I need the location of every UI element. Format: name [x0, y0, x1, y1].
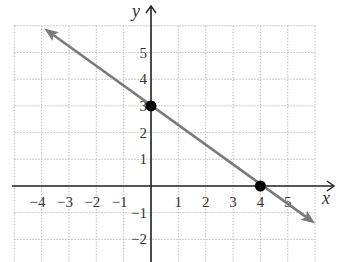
x-axis-label: x	[321, 188, 330, 208]
y-tick-label: 5	[140, 45, 148, 61]
line-series	[53, 35, 306, 217]
coordinate-plane: −4−3−2−11234554321−1−2 x y	[0, 0, 339, 262]
arrowhead-start-icon	[44, 28, 59, 41]
x-intercept-point	[255, 181, 266, 192]
y-intercept-point	[146, 100, 157, 111]
x-tick-label: 1	[175, 194, 183, 210]
y-tick-label: 1	[140, 151, 148, 167]
grid	[14, 26, 315, 262]
y-axis-label: y	[130, 1, 140, 21]
x-tick-label: −1	[112, 194, 128, 210]
y-tick-label: −1	[131, 205, 147, 221]
y-tick-label: −2	[131, 231, 147, 247]
x-tick-label: −4	[30, 194, 46, 210]
x-tick-label: 4	[257, 194, 265, 210]
y-tick-label: 4	[140, 71, 148, 87]
x-tick-label: −2	[84, 194, 100, 210]
x-tick-label: 3	[229, 194, 237, 210]
axes	[12, 6, 334, 262]
y-tick-label: 2	[140, 125, 148, 141]
x-tick-label: −3	[57, 194, 73, 210]
x-tick-label: 2	[202, 194, 210, 210]
